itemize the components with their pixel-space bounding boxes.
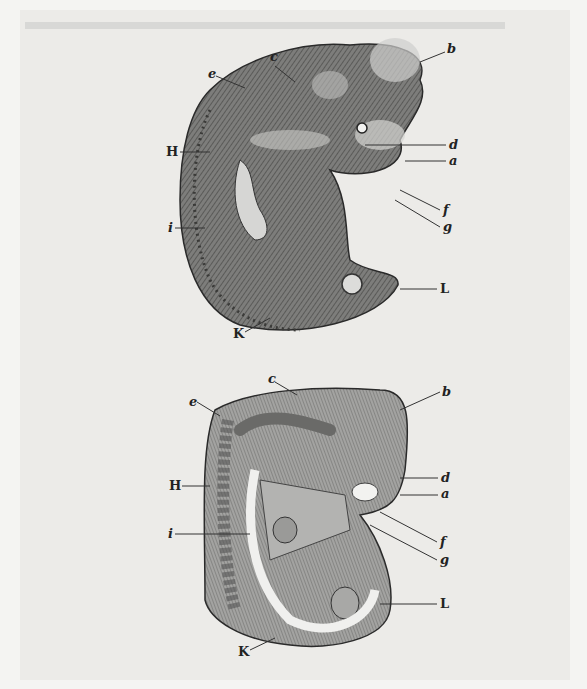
label-a: a	[441, 487, 449, 500]
label-H: H	[166, 145, 178, 158]
label-i: i	[168, 527, 173, 540]
upper-embryo-drawing	[180, 38, 423, 330]
label-b: b	[447, 42, 456, 55]
label-f: f	[440, 535, 446, 548]
label-c: c	[268, 372, 276, 385]
engraving	[0, 0, 587, 689]
label-c: c	[270, 50, 278, 63]
label-d: d	[441, 471, 450, 484]
label-K: K	[238, 645, 249, 658]
label-g: g	[440, 553, 449, 566]
label-f: f	[443, 203, 449, 216]
label-e: e	[208, 67, 216, 80]
label-H: H	[169, 479, 181, 492]
label-L: L	[440, 597, 449, 610]
lower-embryo-drawing	[204, 388, 407, 646]
label-L: L	[440, 282, 449, 295]
label-i: i	[168, 221, 173, 234]
label-g: g	[443, 220, 452, 233]
label-a: a	[449, 154, 457, 167]
label-d: d	[449, 138, 458, 151]
label-K: K	[233, 327, 244, 340]
label-b: b	[442, 385, 451, 398]
label-e: e	[189, 395, 197, 408]
